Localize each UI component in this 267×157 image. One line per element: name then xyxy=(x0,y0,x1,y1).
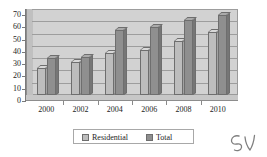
x-axis-label: 2008 xyxy=(167,105,201,115)
x-axis-label: 2000 xyxy=(29,105,63,115)
legend-item-residential: Residential xyxy=(82,132,128,143)
y-axis-label: 20 xyxy=(0,72,21,80)
y-axis-label: 40 xyxy=(0,48,21,56)
x-axis-label: 2010 xyxy=(201,105,235,115)
x-axis-label: 2006 xyxy=(132,105,166,115)
y-axis-label: 10 xyxy=(0,85,21,93)
bar-chart: 010203040506070 200020022004200620082010… xyxy=(0,0,267,157)
y-axis-label: 0 xyxy=(0,97,21,105)
x-axis-labels: 200020022004200620082010 xyxy=(0,105,267,117)
y-axis-label: 60 xyxy=(0,23,21,31)
legend-swatch-total xyxy=(146,134,153,141)
legend-item-total: Total xyxy=(146,132,172,143)
y-axis-label: 50 xyxy=(0,36,21,44)
legend-label-residential: Residential xyxy=(92,133,128,142)
y-axis-label: 70 xyxy=(0,11,21,19)
y-axis-label: 30 xyxy=(0,60,21,68)
legend-swatch-residential xyxy=(82,134,89,141)
legend-label-total: Total xyxy=(156,133,172,142)
x-axis-label: 2004 xyxy=(98,105,132,115)
chart-legend: Residential Total xyxy=(73,129,194,144)
handwritten-scribble-mark xyxy=(225,131,261,155)
x-axis-label: 2002 xyxy=(64,105,98,115)
